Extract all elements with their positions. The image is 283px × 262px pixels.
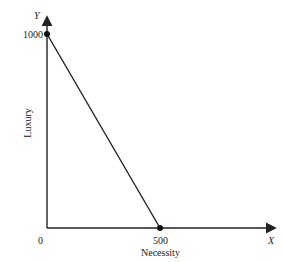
x-tick-label: 500 [153, 236, 168, 246]
x-axis-symbol: X [268, 236, 274, 246]
y-axis-label: Luxury [23, 108, 33, 137]
x-axis-label: Necessity [141, 248, 180, 258]
y-tick-label: 1000 [23, 30, 43, 40]
y-intercept-point [44, 31, 50, 37]
y-axis-symbol: Y [34, 11, 40, 21]
x-intercept-point [157, 225, 163, 231]
budget-line [47, 34, 160, 228]
origin-label: 0 [38, 236, 43, 246]
